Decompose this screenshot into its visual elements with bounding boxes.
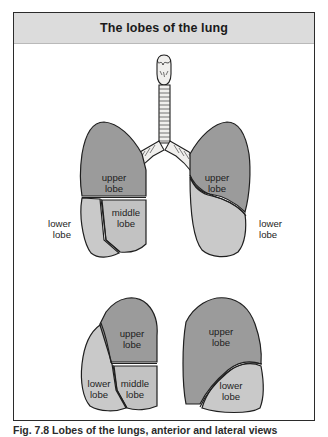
lateral-views: upper lobe middle lobe lower lobe upper …	[81, 298, 263, 413]
larynx	[157, 55, 171, 85]
label-lateral-left-upper-line2: lobe	[212, 337, 230, 348]
lung-lobes-diagram: upper lobe middle lobe lower lobe upper …	[14, 44, 314, 420]
label-anterior-left-lower-line2: lobe	[259, 229, 277, 240]
label-anterior-left-lower-line1: lower	[259, 218, 283, 229]
label-lateral-right-upper-line1: upper	[120, 328, 145, 339]
label-lateral-left-lower-line2: lobe	[222, 391, 240, 402]
label-lateral-right-lower-line1: lower	[88, 378, 112, 389]
figure-body: upper lobe middle lobe lower lobe upper …	[14, 44, 314, 420]
label-anterior-right-lower-line2: lobe	[53, 229, 71, 240]
figure-title-band: The lobes of the lung	[14, 13, 314, 44]
label-anterior-left-upper-line2: lobe	[208, 183, 226, 194]
label-anterior-right-upper-line1: upper	[102, 172, 127, 183]
anterior-view: upper lobe middle lobe lower lobe upper …	[48, 55, 283, 257]
figure-caption: Fig. 7.8 Lobes of the lungs, anterior an…	[13, 424, 315, 437]
label-anterior-right-middle-line1: middle	[112, 207, 140, 218]
label-anterior-right-lower-line1: lower	[48, 218, 72, 229]
label-anterior-right-upper-line2: lobe	[105, 183, 123, 194]
label-anterior-left-upper-line1: upper	[205, 172, 230, 183]
label-lateral-left-upper-line1: upper	[209, 326, 234, 337]
figure-title: The lobes of the lung	[100, 21, 228, 35]
label-lateral-right-lower-line2: lobe	[90, 389, 108, 400]
label-lateral-right-middle-line1: middle	[121, 378, 149, 389]
label-lateral-right-upper-line2: lobe	[123, 339, 141, 350]
label-anterior-right-middle-line2: lobe	[117, 218, 135, 229]
label-lateral-left-lower-line1: lower	[220, 380, 244, 391]
figure-panel: The lobes of the lung	[13, 12, 315, 421]
label-lateral-right-middle-line2: lobe	[126, 389, 144, 400]
trachea	[159, 85, 170, 143]
